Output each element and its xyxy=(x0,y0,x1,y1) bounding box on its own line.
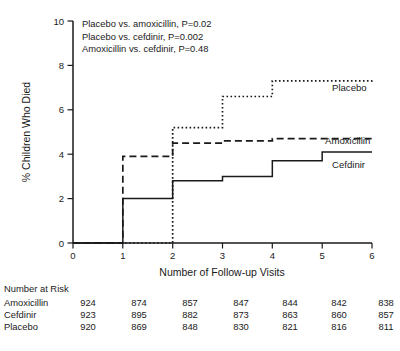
risk-cell: 920 xyxy=(80,321,96,332)
risk-cell: 874 xyxy=(131,297,147,308)
x-tick-label: 1 xyxy=(120,250,125,261)
risk-cell: 857 xyxy=(182,297,198,308)
risk-cell: 857 xyxy=(378,309,394,320)
pvalue-line: Amoxicillin vs. cefdinir, P=0.48 xyxy=(82,43,208,54)
x-tick-label: 6 xyxy=(369,250,374,261)
pvalue-line: Placebo vs. cefdinir, P=0.002 xyxy=(82,31,203,42)
y-axis: 10 8 6 4 2 0 % Children Who Died xyxy=(20,16,73,249)
y-axis-ticks xyxy=(68,21,74,243)
y-tick-label: 6 xyxy=(59,104,64,115)
x-tick-label: 5 xyxy=(320,250,325,261)
x-tick-label: 3 xyxy=(220,250,225,261)
y-tick-label: 8 xyxy=(59,60,64,71)
y-tick-label: 4 xyxy=(59,149,64,160)
number-at-risk-table: Number at Risk Amoxicillin 924 874 857 8… xyxy=(4,283,394,332)
x-tick-label: 4 xyxy=(270,250,275,261)
risk-row-label: Placebo xyxy=(4,321,38,332)
risk-table-heading: Number at Risk xyxy=(4,283,69,294)
y-tick-label: 0 xyxy=(59,238,64,249)
risk-cell: 869 xyxy=(131,321,147,332)
x-tick-label: 0 xyxy=(70,250,75,261)
risk-row-label: Cefdinir xyxy=(4,309,36,320)
risk-cell: 860 xyxy=(331,309,347,320)
risk-cell: 873 xyxy=(233,309,249,320)
table-row: Cefdinir 923 895 882 873 863 860 857 xyxy=(4,309,394,320)
risk-cell: 821 xyxy=(282,321,298,332)
series-labels: Placebo Amoxicillin Cefdinir xyxy=(325,82,370,170)
y-axis-title: % Children Who Died xyxy=(20,82,32,183)
series-label-cefdinir: Cefdinir xyxy=(332,159,366,170)
risk-cell: 816 xyxy=(331,321,347,332)
x-axis-title: Number of Follow-up Visits xyxy=(159,266,284,278)
x-axis-tick-labels: 0 1 2 3 4 5 6 xyxy=(70,250,374,261)
risk-cell: 895 xyxy=(131,309,147,320)
risk-cell: 863 xyxy=(282,309,298,320)
risk-cell: 882 xyxy=(182,309,198,320)
survival-chart-figure: 10 8 6 4 2 0 % Children Who Died 0 xyxy=(0,0,400,351)
risk-cell: 830 xyxy=(233,321,249,332)
risk-cell: 844 xyxy=(282,297,298,308)
series-curves xyxy=(73,79,372,243)
pvalue-annotations: Placebo vs. amoxicillin, P=0.02 Placebo … xyxy=(82,18,212,54)
y-tick-label: 10 xyxy=(53,16,64,27)
y-tick-label: 2 xyxy=(59,193,64,204)
risk-cell: 923 xyxy=(80,309,96,320)
risk-cell: 838 xyxy=(378,297,394,308)
pvalue-line: Placebo vs. amoxicillin, P=0.02 xyxy=(82,18,212,29)
series-label-amoxicillin: Amoxicillin xyxy=(325,135,370,146)
risk-cell: 842 xyxy=(331,297,347,308)
table-row: Amoxicillin 924 874 857 847 844 842 838 xyxy=(4,297,394,308)
risk-row-label: Amoxicillin xyxy=(4,297,48,308)
y-axis-tick-labels: 10 8 6 4 2 0 xyxy=(53,16,64,249)
risk-cell: 847 xyxy=(233,297,249,308)
series-line-cefdinir xyxy=(73,152,372,243)
x-axis: 0 1 2 3 4 5 6 Number of Follow-up Visits xyxy=(70,243,374,278)
series-label-placebo: Placebo xyxy=(332,82,367,93)
x-tick-label: 2 xyxy=(170,250,175,261)
risk-cell: 924 xyxy=(80,297,96,308)
risk-cell: 811 xyxy=(379,321,394,332)
risk-cell: 848 xyxy=(182,321,198,332)
chart-canvas: 10 8 6 4 2 0 % Children Who Died 0 xyxy=(0,0,400,351)
series-line-placebo xyxy=(73,79,372,243)
table-row: Placebo 920 869 848 830 821 816 811 xyxy=(4,321,393,332)
